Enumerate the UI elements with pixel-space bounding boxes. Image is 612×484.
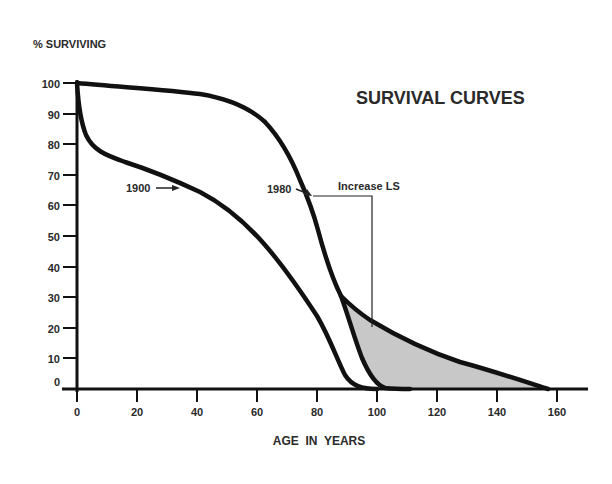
svg-text:60: 60 (251, 406, 263, 418)
svg-text:50: 50 (48, 231, 60, 243)
svg-text:40: 40 (191, 406, 203, 418)
label-1900: 1900 (126, 182, 150, 194)
svg-text:60: 60 (48, 200, 60, 212)
x-ticks (77, 389, 557, 402)
svg-text:40: 40 (48, 262, 60, 274)
svg-text:90: 90 (48, 109, 60, 121)
svg-text:20: 20 (131, 406, 143, 418)
label-increase-ls: Increase LS (338, 180, 400, 192)
survival-chart: 100 90 80 70 60 50 40 30 20 10 0 0 20 40… (0, 0, 612, 484)
arrowhead-1900 (172, 185, 180, 191)
svg-text:0: 0 (54, 376, 60, 388)
increase-ls-bracket (313, 196, 372, 327)
svg-text:70: 70 (48, 170, 60, 182)
svg-text:30: 30 (48, 292, 60, 304)
svg-text:140: 140 (488, 406, 506, 418)
svg-text:20: 20 (48, 323, 60, 335)
x-axis-title: AGE IN YEARS (273, 434, 365, 448)
y-ticks (63, 83, 77, 358)
y-tick-labels: 100 90 80 70 60 50 40 30 20 10 0 (42, 78, 60, 388)
svg-text:120: 120 (428, 406, 446, 418)
chart-title: SURVIVAL CURVES (356, 88, 525, 108)
svg-text:80: 80 (311, 406, 323, 418)
svg-text:0: 0 (74, 406, 80, 418)
svg-text:10: 10 (48, 353, 60, 365)
curve-1900 (77, 83, 377, 389)
x-tick-labels: 0 20 40 60 80 100 120 140 160 (74, 406, 566, 418)
svg-text:160: 160 (548, 406, 566, 418)
svg-text:100: 100 (42, 78, 60, 90)
svg-text:100: 100 (368, 406, 386, 418)
svg-text:80: 80 (48, 139, 60, 151)
y-axis-title: % SURVIVING (33, 38, 106, 50)
label-1980: 1980 (267, 183, 291, 195)
